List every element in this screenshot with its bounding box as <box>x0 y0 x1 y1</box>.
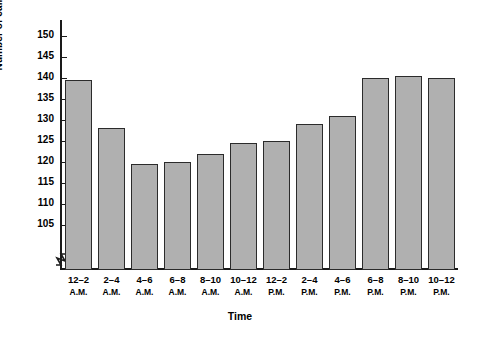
y-tick-label: 150 <box>22 29 54 40</box>
x-label-period: P.M. <box>421 286 462 298</box>
bar <box>362 78 388 270</box>
bar <box>65 80 91 270</box>
x-label-range: 10–12 <box>421 274 462 286</box>
y-tick-label: 120 <box>22 155 54 166</box>
bar <box>164 162 190 270</box>
y-axis-title: Number of calls received <box>0 0 4 110</box>
y-tick-label: 125 <box>22 134 54 145</box>
bar <box>263 141 289 270</box>
bar <box>329 116 355 270</box>
bar <box>98 128 124 270</box>
x-tick-label: 10–12P.M. <box>421 274 462 298</box>
bar-chart: Number of calls received 105110115120125… <box>0 0 480 337</box>
y-tick-label: 115 <box>22 176 54 187</box>
bar <box>428 78 454 270</box>
bars-container <box>62 20 458 270</box>
y-tick-label: 130 <box>22 113 54 124</box>
y-tick-label: 105 <box>22 218 54 229</box>
bar <box>395 76 421 270</box>
y-tick-label: 110 <box>22 197 54 208</box>
bar <box>230 143 256 270</box>
bar <box>131 164 157 270</box>
y-tick-label: 135 <box>22 92 54 103</box>
y-tick-label: 145 <box>22 50 54 61</box>
x-axis-labels: 12–2A.M.2–4A.M.4–6A.M.6–8A.M.8–10A.M.10–… <box>62 274 458 308</box>
bar <box>296 124 322 270</box>
y-tick-label: 140 <box>22 71 54 82</box>
bar <box>197 154 223 270</box>
x-axis-title: Time <box>0 310 480 322</box>
